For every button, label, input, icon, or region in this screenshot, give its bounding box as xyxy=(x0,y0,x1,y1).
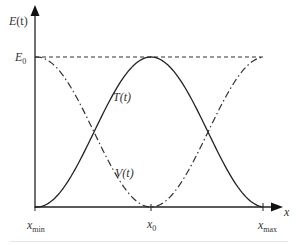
t-curve-label: T(t) xyxy=(113,90,131,104)
kinetic-energy-curve xyxy=(35,57,263,207)
xmax-label: xmax xyxy=(257,218,277,234)
x0-label: x0 xyxy=(146,217,156,233)
energy-diagram: E(t) E0 T(t) V(t) x xmin x0 xmax xyxy=(0,0,300,245)
y-axis-arrow-icon xyxy=(31,5,40,16)
e0-label: E0 xyxy=(14,50,26,66)
potential-energy-curve xyxy=(35,57,263,207)
y-axis-label: E(t) xyxy=(8,14,28,28)
x-axis-arrow-icon xyxy=(271,203,283,212)
bottom-divider xyxy=(10,241,288,242)
xmin-label: xmin xyxy=(26,218,45,234)
v-curve-label: V(t) xyxy=(115,166,134,180)
x-axis-label: x xyxy=(283,205,290,219)
